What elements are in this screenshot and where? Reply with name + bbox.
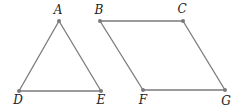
triangle-ADE bbox=[19, 21, 101, 91]
label-D: D bbox=[12, 93, 23, 107]
label-C: C bbox=[177, 2, 186, 16]
parallelogram-BCGF bbox=[100, 21, 225, 90]
point-F bbox=[141, 88, 145, 92]
label-E: E bbox=[96, 93, 106, 107]
segment-CG bbox=[183, 21, 225, 90]
point-B bbox=[98, 19, 102, 23]
label-A: A bbox=[53, 3, 63, 17]
label-B: B bbox=[94, 3, 104, 17]
geometry-diagram: A B C D E F G bbox=[0, 0, 240, 108]
point-C bbox=[181, 19, 185, 23]
segment-FB bbox=[100, 21, 143, 90]
point-G bbox=[223, 88, 227, 92]
segment-AD bbox=[19, 21, 59, 91]
label-F: F bbox=[138, 93, 148, 107]
point-A bbox=[57, 19, 61, 23]
segment-AE bbox=[59, 21, 101, 91]
label-G: G bbox=[221, 94, 231, 108]
